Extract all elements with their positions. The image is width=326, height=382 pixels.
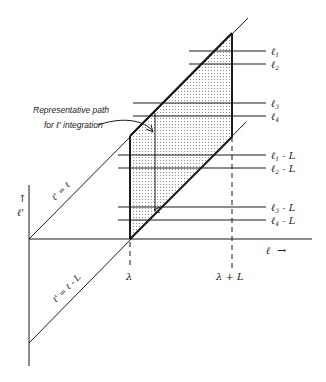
- x-axis-arrow-icon: →: [277, 244, 286, 257]
- label-l1: ℓ1: [271, 46, 279, 58]
- label-l1-minus-L: ℓ1 - L: [271, 150, 296, 162]
- svg-text:ℓ3 - L: ℓ3 - L: [271, 202, 296, 214]
- tick-lambda: λ: [125, 271, 132, 282]
- label-l4-minus-L: ℓ4 - L: [271, 215, 296, 227]
- annotation-line-2: for ℓ' integration: [44, 120, 103, 130]
- svg-text:ℓ4 - L: ℓ4 - L: [271, 215, 296, 227]
- label-l3: ℓ3: [271, 98, 279, 110]
- label-l3-minus-L: ℓ3 - L: [271, 202, 296, 214]
- svg-text:ℓ2: ℓ2: [271, 59, 279, 71]
- y-axis-label: ℓ': [17, 207, 24, 218]
- label-l2-minus-L: ℓ2 - L: [271, 163, 296, 175]
- svg-text:ℓ1: ℓ1: [271, 46, 279, 58]
- label-l2: ℓ2: [271, 59, 279, 71]
- annotation-line-1: Representative path: [33, 105, 109, 115]
- label-l4: ℓ4: [271, 111, 279, 123]
- svg-text:ℓ4: ℓ4: [271, 111, 279, 123]
- svg-text:ℓ3: ℓ3: [271, 98, 279, 110]
- y-axis-arrow-icon: ↑: [18, 193, 26, 204]
- integration-region-diagram: Representative path for ℓ' integration ℓ…: [0, 0, 326, 382]
- x-axis-label: ℓ: [266, 245, 270, 256]
- tick-lambda-plus-L: λ + L: [215, 271, 244, 282]
- svg-text:ℓ1 - L: ℓ1 - L: [271, 150, 296, 162]
- lower-diagonal-label: ℓ' = ℓ - L: [50, 272, 83, 305]
- svg-text:ℓ2 - L: ℓ2 - L: [271, 163, 296, 175]
